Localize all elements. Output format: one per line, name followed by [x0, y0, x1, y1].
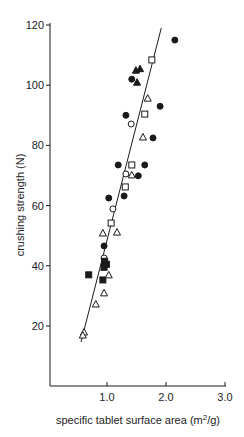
x-tick-label: 3.0 — [217, 391, 232, 403]
open-square-marker — [129, 162, 135, 168]
regression-line — [81, 28, 161, 342]
x-axis-label-tail: /g) — [207, 414, 220, 426]
filled-circle-marker — [121, 193, 127, 199]
x-axis-label: specific tablet surface area (m2/g) — [56, 413, 220, 426]
x-tick-label: 2.0 — [158, 391, 173, 403]
y-tick-label: 60 — [32, 200, 44, 212]
axes — [50, 23, 226, 386]
y-tick-label: 100 — [26, 79, 44, 91]
y-tick-label: 120 — [26, 19, 44, 31]
x-tick-label: 1.0 — [99, 391, 114, 403]
filled-circle-marker — [115, 162, 121, 168]
open-circle-marker — [123, 171, 129, 177]
filled-circle-marker — [157, 103, 163, 109]
open-triangle-marker — [114, 229, 121, 236]
open-triangle-marker — [99, 229, 106, 236]
filled-circle-marker — [172, 37, 178, 43]
open-triangle-marker — [144, 95, 151, 102]
filled-circle-marker — [150, 135, 156, 141]
open-triangle-marker — [92, 301, 99, 308]
filled-circle-marker — [101, 243, 107, 249]
filled-triangle-marker — [137, 65, 144, 72]
filled-circle-marker — [142, 162, 148, 168]
open-square-marker — [108, 220, 114, 226]
open-square-marker — [142, 111, 148, 117]
x-axis-label-main: specific tablet surface area (m — [56, 414, 203, 426]
y-axis-label: crushing strength (N) — [14, 154, 26, 257]
scatter-chart: 20406080100120 1.02.03.0 crushing streng… — [0, 0, 244, 437]
open-square-marker — [149, 57, 155, 63]
open-triangle-marker — [101, 289, 108, 296]
y-tick-label: 80 — [32, 139, 44, 151]
y-ticks: 20406080100120 — [26, 19, 50, 332]
y-tick-label: 40 — [32, 260, 44, 272]
open-triangle-marker — [105, 271, 112, 278]
x-ticks: 1.02.03.0 — [99, 382, 232, 403]
regression-line-path — [81, 28, 161, 342]
open-triangle-marker — [139, 133, 146, 140]
filled-circle-marker — [129, 76, 135, 82]
open-square-marker — [122, 184, 128, 190]
open-triangle-marker — [128, 171, 135, 178]
filled-circle-marker — [106, 195, 112, 201]
filled-square-marker — [101, 264, 107, 270]
open-circle-marker — [128, 121, 134, 127]
y-tick-label: 20 — [32, 320, 44, 332]
filled-circle-marker — [135, 173, 141, 179]
open-circle-marker — [110, 206, 116, 212]
filled-circle-marker — [123, 112, 129, 118]
filled-square-marker — [86, 272, 92, 278]
